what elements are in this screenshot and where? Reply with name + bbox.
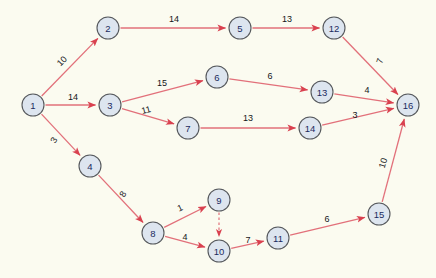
node-1[interactable]: 1: [22, 94, 44, 116]
graph-canvas: 10143141511813613147674310 1234567891011…: [0, 0, 436, 278]
node-6[interactable]: 6: [206, 66, 228, 88]
node-label-3: 3: [107, 100, 112, 111]
edge-weight-6-13: 6: [267, 71, 272, 81]
node-14[interactable]: 14: [299, 117, 321, 139]
edge-weight-14-16: 3: [352, 110, 357, 120]
edge-weight-10-11: 7: [245, 235, 250, 245]
edge-weight-3-6: 15: [157, 78, 167, 88]
node-label-14: 14: [305, 123, 316, 134]
edge-13-to-16: [334, 94, 393, 103]
edge-weight-3-7: 11: [140, 104, 151, 116]
node-9[interactable]: 9: [208, 189, 230, 211]
node-11[interactable]: 11: [267, 227, 289, 249]
node-5[interactable]: 5: [229, 17, 251, 39]
node-label-9: 9: [216, 195, 221, 206]
node-label-16: 16: [403, 100, 414, 111]
node-label-5: 5: [237, 23, 242, 34]
node-15[interactable]: 15: [368, 203, 390, 225]
node-2[interactable]: 2: [97, 17, 119, 39]
edge-8-to-9: [164, 206, 206, 227]
edge-weight-2-5: 14: [169, 14, 179, 24]
edge-12-to-16: [343, 37, 398, 95]
node-label-10: 10: [214, 246, 225, 257]
network-diagram: 10143141511813613147674310 1234567891011…: [0, 0, 436, 278]
edge-weight-15-16: 10: [377, 157, 389, 169]
node-label-15: 15: [374, 209, 385, 220]
edge-weight-1-3: 14: [68, 92, 78, 102]
node-16[interactable]: 16: [397, 94, 419, 116]
node-label-8: 8: [150, 228, 155, 239]
node-label-7: 7: [185, 123, 190, 134]
edge-1-to-4: [42, 114, 81, 155]
edge-weight-5-12: 13: [282, 14, 292, 24]
node-label-4: 4: [87, 161, 92, 172]
node-label-13: 13: [317, 87, 328, 98]
node-label-11: 11: [273, 233, 283, 244]
node-3[interactable]: 3: [99, 94, 121, 116]
node-label-6: 6: [214, 72, 219, 83]
edge-weight-7-14: 13: [243, 113, 253, 123]
node-8[interactable]: 8: [142, 222, 164, 244]
node-4[interactable]: 4: [79, 155, 101, 177]
edge-weight-12-16: 7: [374, 57, 385, 65]
edge-weight-1-2: 10: [55, 54, 69, 68]
node-label-2: 2: [105, 23, 110, 34]
edges-layer: [42, 28, 405, 248]
node-label-1: 1: [30, 100, 35, 111]
node-7[interactable]: 7: [177, 117, 199, 139]
node-12[interactable]: 12: [323, 17, 345, 39]
edge-weight-8-10: 4: [182, 232, 187, 242]
edge-weight-11-15: 6: [324, 214, 329, 224]
node-10[interactable]: 10: [208, 240, 230, 262]
edge-14-to-16: [322, 108, 394, 125]
node-13[interactable]: 13: [311, 81, 333, 103]
edge-weight-13-16: 4: [364, 85, 369, 95]
edge-weight-1-4: 3: [48, 135, 59, 144]
node-label-12: 12: [329, 23, 340, 34]
edge-4-to-8: [99, 175, 144, 222]
edge-1-to-2: [42, 38, 98, 96]
edge-weight-8-9: 1: [176, 202, 185, 213]
